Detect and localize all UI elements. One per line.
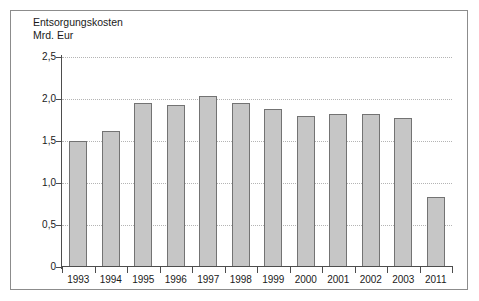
x-axis-tick-mark <box>387 267 388 273</box>
x-axis-tick-label: 1993 <box>62 274 95 285</box>
bar <box>362 114 380 267</box>
gridline <box>62 57 452 58</box>
x-axis-tick-mark <box>192 267 193 273</box>
x-axis-tick-label: 1997 <box>192 274 225 285</box>
bar <box>329 114 347 267</box>
x-axis-tick-label: 2003 <box>387 274 420 285</box>
x-axis-tick-mark <box>225 267 226 273</box>
x-axis-tick-mark <box>290 267 291 273</box>
y-axis-tick-labels: 2,52,01,51,00,50 <box>0 0 56 301</box>
x-axis-tick-mark <box>95 267 96 273</box>
x-axis-tick-mark <box>127 267 128 273</box>
y-axis-tick-label: 2,5 <box>42 51 56 62</box>
x-axis-tick-mark <box>355 267 356 273</box>
x-axis-tick-label: 1996 <box>160 274 193 285</box>
bar <box>427 197 445 267</box>
x-axis-tick-mark <box>322 267 323 273</box>
y-axis-line <box>61 55 62 269</box>
y-axis-tick-label: 1,5 <box>42 135 56 146</box>
x-axis-tick-label: 1999 <box>257 274 290 285</box>
y-axis-tick-label: 1,0 <box>42 177 56 188</box>
bar <box>134 103 152 267</box>
x-axis-tick-label: 1994 <box>95 274 128 285</box>
chart-figure: Entsorgungskosten Mrd. Eur 2,52,01,51,00… <box>0 0 479 301</box>
x-axis-tick-mark <box>62 267 63 273</box>
x-axis-tick-label: 2000 <box>290 274 323 285</box>
x-axis-tick-label: 1995 <box>127 274 160 285</box>
x-axis-tick-label: 2001 <box>322 274 355 285</box>
y-axis-tick-label: 0,5 <box>42 219 56 230</box>
x-axis-tick-mark <box>257 267 258 273</box>
bar <box>232 103 250 267</box>
y-axis-tick-label: 2,0 <box>42 93 56 104</box>
bar <box>167 105 185 267</box>
plot-area <box>62 57 452 267</box>
x-axis-tick-label: 2002 <box>355 274 388 285</box>
bar <box>264 109 282 267</box>
x-axis-tick-mark <box>160 267 161 273</box>
x-axis-tick-label: 1998 <box>225 274 258 285</box>
gridline <box>62 99 452 100</box>
x-axis-tick-mark <box>420 267 421 273</box>
x-axis-tick-mark <box>452 267 453 273</box>
bar <box>297 116 315 267</box>
x-axis-tick-label: 2011 <box>420 274 453 285</box>
bar <box>394 118 412 267</box>
bar <box>102 131 120 267</box>
bar <box>199 96 217 267</box>
bar <box>69 141 87 267</box>
